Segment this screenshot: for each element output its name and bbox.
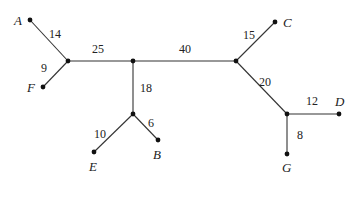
junction-node [131,112,136,117]
edge-weight: 10 [94,127,106,141]
edges [30,20,339,154]
junction-node [131,59,136,64]
node-f [41,85,46,90]
edge-j3-c [236,22,275,61]
node-b [156,138,161,143]
node-label-b: B [153,147,161,162]
node-c [273,20,278,25]
edge-weight: 25 [92,42,104,56]
nodes [28,18,342,157]
edge-j5-b [133,114,158,140]
tree-diagram: 1492540152012818106 AFCDGEB [0,0,359,197]
edge-weight: 18 [140,81,152,95]
node-label-g: G [282,160,292,175]
node-label-a: A [13,13,22,28]
node-label-f: F [26,80,36,95]
node-d [337,112,342,117]
junction-node [234,59,239,64]
edge-weight: 15 [243,28,255,42]
node-e [92,150,97,155]
edge-weight: 8 [297,128,303,142]
edge-weight: 6 [148,116,154,130]
node-label-c: C [283,15,292,30]
junction-node [285,112,290,117]
edge-weight: 40 [179,42,191,56]
node-a [28,18,33,23]
node-label-d: D [334,94,345,109]
node-label-e: E [88,159,97,174]
edge-weight: 9 [41,61,47,75]
node-g [285,152,290,157]
edge-weight: 14 [49,27,61,41]
edge-weights: 1492540152012818106 [41,27,318,142]
edge-weight: 12 [306,94,318,108]
node-labels: AFCDGEB [13,13,345,175]
edge-weight: 20 [259,75,271,89]
junction-node [66,59,71,64]
